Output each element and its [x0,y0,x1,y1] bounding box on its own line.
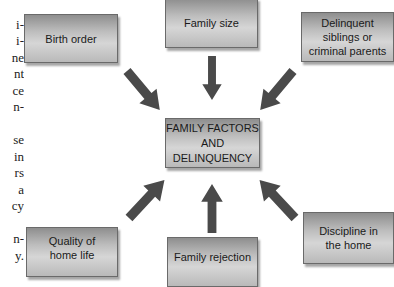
factor-box-birth-order: Birth order [24,14,118,63]
center-label: AND [166,136,259,151]
factor-label: the home [319,238,378,252]
arrow-family-rejection-icon [201,184,223,233]
factor-label: Family rejection [174,250,251,264]
center-label: FAMILY FACTORS [166,121,259,136]
factor-box-discipline-home: Discipline in the home [303,212,394,264]
center-box-family-factors: FAMILY FACTORS AND DELINQUENCY [165,118,260,168]
arrow-delinquent-siblings-icon [252,64,302,117]
factor-label: Quality of [49,234,95,248]
factor-label: Birth order [45,32,96,46]
factor-label: siblings or [309,30,387,44]
arrow-discipline-home-icon [251,172,303,226]
factor-label: Family size [184,16,239,30]
factor-label: Delinquent [309,16,387,30]
factor-box-quality-home-life: Quality of home life [26,227,118,277]
factor-label: Discipline in [319,224,378,238]
factor-box-family-size: Family size [165,0,258,48]
factor-box-family-rejection: Family rejection [167,237,258,287]
center-label: DELINQUENCY [166,151,259,166]
factor-label: home life [49,248,95,262]
factor-label: criminal parents [309,44,387,58]
arrow-quality-home-life-icon [121,172,173,226]
factor-box-delinquent-siblings: Delinquent siblings or criminal parents [301,12,394,62]
arrow-family-size-icon [202,56,221,100]
arrow-birth-order-icon [118,64,168,117]
